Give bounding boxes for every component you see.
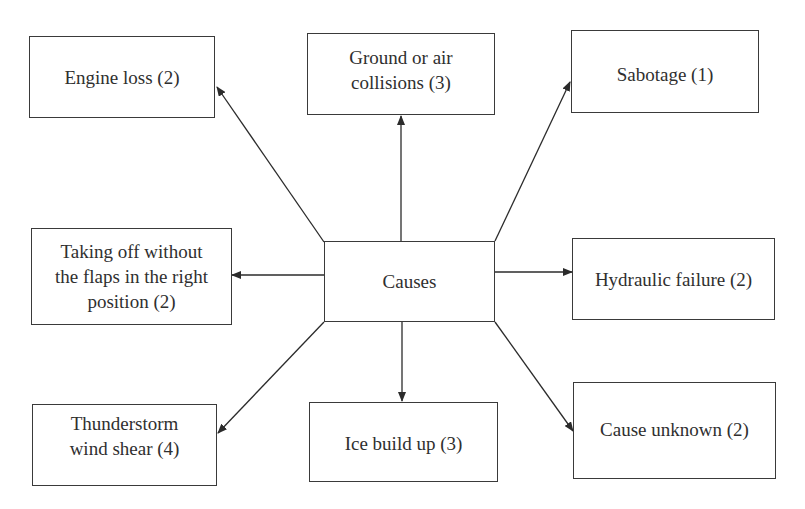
cause-node-hydraulic-failure: Hydraulic failure (2) [572, 238, 775, 320]
cause-label: Hydraulic failure (2) [595, 267, 752, 292]
cause-node-ground-or-air-collisions: Ground or air collisions (3) [307, 33, 495, 115]
arrow-to-cause-unknown [495, 322, 573, 431]
center-node-label: Causes [383, 269, 437, 294]
cause-node-sabotage: Sabotage (1) [571, 30, 759, 113]
cause-node-thunderstorm-wind-shear: Thunderstorm wind shear (4) [32, 404, 217, 486]
cause-label: Engine loss (2) [64, 65, 179, 90]
arrow-to-sabotage [495, 82, 570, 241]
cause-label: Cause unknown (2) [600, 417, 749, 442]
cause-node-engine-loss: Engine loss (2) [29, 36, 215, 118]
cause-node-taking-off-without-flaps: Taking off without the flaps in the righ… [31, 228, 232, 325]
center-node-causes: Causes [324, 241, 495, 322]
cause-label: Ground or air collisions (3) [349, 45, 452, 95]
causes-diagram: Causes Engine loss (2) Ground or air col… [0, 0, 805, 509]
cause-node-ice-build-up: Ice build up (3) [309, 402, 498, 482]
cause-label: Sabotage (1) [617, 62, 714, 87]
cause-label: Ice build up (3) [345, 431, 463, 456]
cause-node-cause-unknown: Cause unknown (2) [573, 382, 776, 479]
cause-label: Taking off without the flaps in the righ… [55, 239, 208, 314]
cause-label: Thunderstorm wind shear (4) [70, 411, 180, 461]
